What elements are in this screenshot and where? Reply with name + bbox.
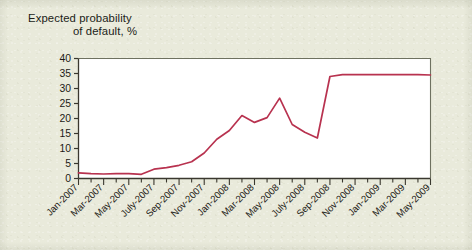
x-axis-tick-labels: Jan-2007Mar-2007May-2007July-2007Sep-200… (44, 182, 432, 220)
y-axis-tick-labels: 0510152025303540 (59, 53, 71, 184)
y-tick-label: 15 (59, 128, 71, 139)
figure-panel: Expected probability of default, % 05101… (0, 0, 472, 250)
y-tick-label: 5 (65, 158, 71, 169)
y-tick-label: 40 (59, 53, 71, 64)
y-tick-label: 20 (59, 113, 71, 124)
y-tick-label: 25 (59, 98, 71, 109)
plot-area-background (79, 59, 431, 179)
y-tick-label: 10 (59, 143, 71, 154)
line-chart: 0510152025303540 Jan-2007Mar-2007May-200… (0, 0, 472, 250)
y-tick-label: 30 (59, 83, 71, 94)
y-tick-label: 35 (59, 68, 71, 79)
